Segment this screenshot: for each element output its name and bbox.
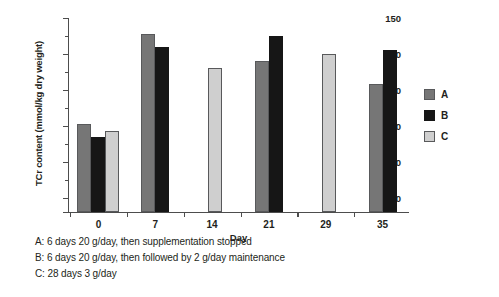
legend-swatch-b (424, 110, 435, 121)
bar-c-day-14 (208, 68, 222, 212)
legend-item-a: A (424, 84, 494, 105)
y-axis-title: TCr content (mmol/kg dry weight) (33, 14, 44, 214)
caption-line-2: B: 6 days 20 g/day, then followed by 2 g… (35, 250, 475, 266)
x-tick (184, 212, 185, 217)
y-tick-major (63, 54, 68, 55)
y-tick-major (63, 18, 68, 19)
legend-label-b: B (441, 111, 448, 121)
y-tick-label: 150 (385, 13, 401, 24)
x-tick-label: 29 (320, 219, 331, 230)
legend-swatch-a (424, 89, 435, 100)
y-tick-minor (65, 108, 68, 109)
x-tick (70, 212, 71, 217)
x-axis-line (63, 212, 409, 213)
legend-swatch-c (424, 131, 435, 142)
bar-a-day-7 (141, 34, 155, 212)
bar-a-day-0 (77, 124, 91, 212)
y-tick-major (63, 198, 68, 199)
bar-a-day-35 (369, 84, 383, 212)
caption-block: A: 6 days 20 g/day, then supplementation… (35, 234, 475, 282)
bar-c-day-0 (105, 131, 119, 212)
x-tick (127, 212, 128, 217)
plot-area: 100110120130140150 0714212935 Day (68, 18, 409, 212)
caption-line-3: C: 28 days 3 g/day (35, 266, 475, 282)
x-tick-label: 35 (377, 219, 388, 230)
bar-a-day-21 (255, 61, 269, 212)
y-tick-major (63, 90, 68, 91)
legend-item-b: B (424, 105, 494, 126)
bar-c-day-29 (322, 54, 336, 212)
legend-label-c: C (441, 132, 448, 142)
y-tick-minor (65, 180, 68, 181)
y-tick-minor (65, 144, 68, 145)
y-axis-line (68, 18, 69, 212)
x-tick-label: 21 (263, 219, 274, 230)
x-tick (241, 212, 242, 217)
y-tick-minor (65, 36, 68, 37)
legend: ABC (424, 84, 494, 147)
y-tick-minor (65, 72, 68, 73)
bar-b-day-35 (383, 50, 397, 212)
bar-b-day-21 (269, 36, 283, 212)
x-tick-label: 14 (207, 219, 218, 230)
bar-b-day-7 (155, 47, 169, 212)
y-tick-major (63, 126, 68, 127)
bar-chart-figure: TCr content (mmol/kg dry weight) 1001101… (0, 0, 499, 297)
x-tick (297, 212, 298, 217)
x-tick (354, 212, 355, 217)
y-tick-major (63, 162, 68, 163)
legend-label-a: A (441, 90, 448, 100)
bar-b-day-0 (91, 137, 105, 212)
caption-line-1: A: 6 days 20 g/day, then supplementation… (35, 234, 475, 250)
legend-item-c: C (424, 126, 494, 147)
x-tick-label: 7 (152, 219, 158, 230)
x-tick-label: 0 (96, 219, 102, 230)
